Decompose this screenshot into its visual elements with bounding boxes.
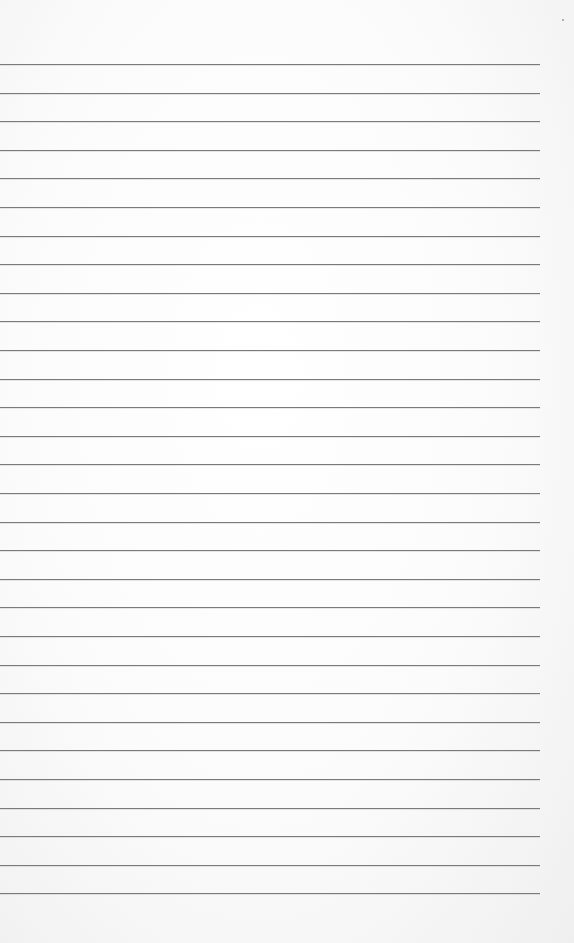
- ruled-line: [0, 436, 540, 437]
- ruled-line: [0, 665, 540, 666]
- ruled-line: [0, 693, 540, 694]
- ruled-line: [0, 207, 540, 208]
- lined-paper-sheet: [0, 0, 574, 943]
- ruled-line: [0, 636, 540, 637]
- ruled-line: [0, 379, 540, 380]
- ruled-line: [0, 550, 540, 551]
- ruled-line: [0, 522, 540, 523]
- ruled-line: [0, 64, 540, 65]
- ruled-line: [0, 493, 540, 494]
- paper-speck: [562, 19, 564, 21]
- ruled-line: [0, 93, 540, 94]
- ruled-line: [0, 464, 540, 465]
- ruled-line: [0, 350, 540, 351]
- ruled-line: [0, 293, 540, 294]
- ruled-line: [0, 750, 540, 751]
- ruled-line: [0, 321, 540, 322]
- ruled-line: [0, 607, 540, 608]
- ruled-line: [0, 779, 540, 780]
- ruled-line: [0, 178, 540, 179]
- ruled-line: [0, 579, 540, 580]
- ruled-line: [0, 236, 540, 237]
- ruled-line: [0, 808, 540, 809]
- ruled-line: [0, 722, 540, 723]
- ruled-line: [0, 407, 540, 408]
- ruled-line: [0, 893, 540, 894]
- ruled-line: [0, 121, 540, 122]
- ruled-line: [0, 865, 540, 866]
- ruled-line: [0, 264, 540, 265]
- ruled-line: [0, 150, 540, 151]
- ruled-line: [0, 836, 540, 837]
